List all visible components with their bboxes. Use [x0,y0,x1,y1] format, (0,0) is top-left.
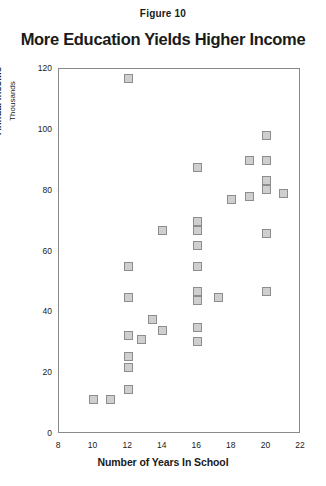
data-point [89,395,98,404]
data-point [124,293,133,302]
data-point [262,156,271,165]
data-point [279,189,288,198]
data-point [262,185,271,194]
data-point [262,176,271,185]
data-point [262,229,271,238]
chart-title: More Education Yields Higher Income [0,30,326,49]
y-tick-label: 0 [26,428,52,438]
data-point [148,315,157,324]
data-point [245,192,254,201]
data-point [245,156,254,165]
data-point [124,385,133,394]
data-point [193,296,202,305]
data-point [124,74,133,83]
data-point [193,287,202,296]
x-axis-title: Number of Years In School [0,456,326,468]
y-axis-subtitle: Thousands [8,26,17,176]
data-point [106,395,115,404]
y-tick-label: 80 [26,185,52,195]
figure-caption: Figure 10 [0,8,326,19]
data-point [193,226,202,235]
y-tick-label: 60 [26,246,52,256]
data-point [227,195,236,204]
data-point [262,287,271,296]
data-point [214,293,223,302]
x-tick-label: 16 [186,440,206,450]
data-point [193,163,202,172]
x-tick-label: 18 [221,440,241,450]
data-point [124,262,133,271]
y-tick-label: 120 [26,63,52,73]
data-point [193,337,202,346]
data-point [124,363,133,372]
y-axis-title: Annual Income [0,26,3,176]
y-tick-label: 40 [26,306,52,316]
data-point [158,326,167,335]
x-tick-label: 22 [290,440,310,450]
plot-area [58,68,300,433]
x-tick-label: 12 [117,440,137,450]
data-point [193,217,202,226]
data-point [137,335,146,344]
y-tick-label: 100 [26,124,52,134]
x-tick-label: 14 [152,440,172,450]
x-tick-label: 10 [83,440,103,450]
data-point [193,241,202,250]
data-point [124,331,133,340]
data-point [124,352,133,361]
data-point [193,262,202,271]
y-tick-label: 20 [26,367,52,377]
x-tick-label: 20 [255,440,275,450]
data-point [262,131,271,140]
data-point [193,323,202,332]
x-tick-label: 8 [48,440,68,450]
data-point [158,226,167,235]
